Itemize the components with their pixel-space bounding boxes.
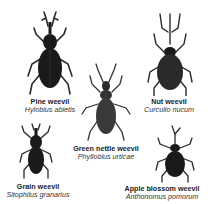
- latin-name: Sitophilus granarius: [0, 191, 76, 199]
- nut-weevil-label: Nut weevil Curculio nucum: [124, 98, 211, 114]
- latin-name: Curculio nucum: [124, 106, 211, 114]
- pine-weevil-illustration: [20, 8, 80, 96]
- nut-weevil-illustration: [140, 10, 200, 96]
- grain-weevil-illustration: [16, 122, 56, 182]
- apple-blossom-weevil-illustration: [150, 124, 200, 184]
- green-nettle-weevil-label: Green nettle weevil Phyllobius urticae: [56, 145, 156, 161]
- latin-name: Phyllobius urticae: [56, 153, 156, 161]
- latin-name: Anthonomus pomorum: [112, 193, 211, 201]
- green-nettle-weevil-illustration: [76, 62, 136, 142]
- apple-blossom-weevil-label: Apple blossom weevil Anthonomus pomorum: [112, 185, 211, 201]
- grain-weevil-label: Grain weevil Sitophilus granarius: [0, 183, 76, 199]
